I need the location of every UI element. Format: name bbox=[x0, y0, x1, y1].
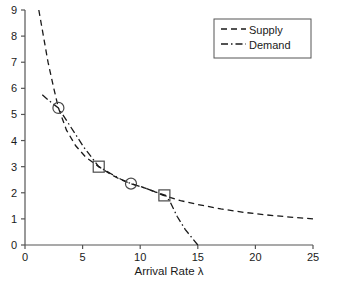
marker-circle bbox=[125, 178, 136, 189]
x-tick-label: 20 bbox=[249, 251, 261, 263]
y-tick-label: 2 bbox=[0, 187, 17, 199]
x-tick-label: 0 bbox=[22, 251, 28, 263]
y-tick-label: 3 bbox=[0, 161, 17, 173]
legend-label-demand: Demand bbox=[249, 39, 291, 51]
series-line-demand bbox=[42, 95, 198, 245]
x-tick-label: 5 bbox=[80, 251, 86, 263]
data-markers-group bbox=[53, 102, 170, 200]
legend-label-supply: Supply bbox=[249, 24, 283, 36]
x-tick-label: 10 bbox=[134, 251, 146, 263]
y-tick-label: 8 bbox=[0, 30, 17, 42]
y-tick-label: 4 bbox=[0, 135, 17, 147]
y-tick-label: 1 bbox=[0, 213, 17, 225]
y-tick-label: 0 bbox=[0, 239, 17, 251]
x-tick-label: 25 bbox=[307, 251, 319, 263]
y-tick-label: 9 bbox=[0, 4, 17, 16]
y-tick-label: 7 bbox=[0, 56, 17, 68]
x-tick-label: 15 bbox=[192, 251, 204, 263]
x-tick-marks bbox=[25, 245, 313, 249]
chart-figure: 0123456789 0510152025 Arrival Rate λ Sup… bbox=[0, 0, 339, 291]
y-tick-label: 6 bbox=[0, 82, 17, 94]
x-axis-title: Arrival Rate λ bbox=[134, 265, 203, 277]
y-tick-label: 5 bbox=[0, 108, 17, 120]
